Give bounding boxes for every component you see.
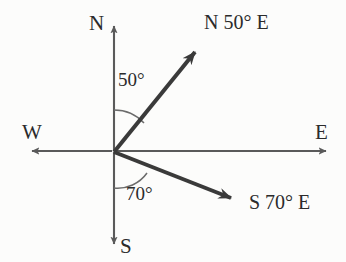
north-axis-label: N [89, 13, 104, 34]
west-axis-label: W [22, 122, 42, 143]
bearing-label-n50e: N 50° E [204, 12, 269, 32]
bearing-label-s70e: S 70° E [249, 192, 310, 212]
diagram-canvas [0, 0, 346, 262]
compass-bearing-diagram: N S W E N 50° E S 70° E 50° 70° [0, 0, 346, 262]
ray-n50e [114, 52, 195, 152]
south-axis-label: S [120, 236, 132, 257]
angle-label-70: 70° [126, 184, 153, 203]
angle-label-50: 50° [118, 70, 145, 89]
east-axis-label: E [315, 122, 328, 143]
